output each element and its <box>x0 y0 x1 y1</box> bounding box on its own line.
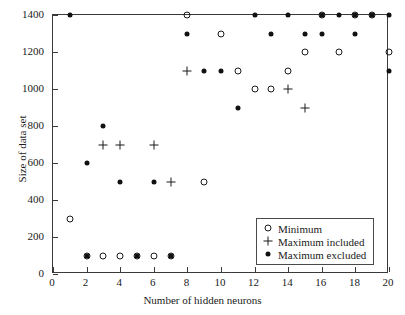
data-point-plus <box>183 66 192 75</box>
legend-label: Minimum <box>275 223 322 235</box>
data-point-open-circle <box>268 86 275 93</box>
data-point-filled-dot <box>286 13 291 18</box>
x-tick <box>355 267 356 272</box>
data-point-plus <box>99 140 108 149</box>
data-point-filled-dot <box>118 179 123 184</box>
data-point-open-circle <box>335 49 342 56</box>
x-tick-label: 6 <box>150 276 156 288</box>
y-tick <box>53 163 58 164</box>
data-point-filled-dot <box>202 68 207 73</box>
data-point-filled-dot <box>353 31 358 36</box>
y-axis-label: Size of data set <box>16 79 28 219</box>
x-tick-label: 4 <box>116 276 122 288</box>
data-point-filled-dot <box>370 13 375 18</box>
x-tick <box>221 267 222 272</box>
y-tick-label: 1400 <box>0 8 44 20</box>
data-point-plus <box>116 140 125 149</box>
x-tick-label: 0 <box>49 276 55 288</box>
data-point-filled-dot <box>387 68 392 73</box>
y-tick <box>53 200 58 201</box>
data-point-open-circle <box>150 252 157 259</box>
chart-legend: MinimumMaximum includedMaximum excluded <box>256 218 374 265</box>
data-point-filled-dot <box>168 253 173 258</box>
y-tick-label: 1200 <box>0 45 44 57</box>
data-point-filled-dot <box>135 253 140 258</box>
scatter-plot-figure: 02468101214161820 0200400600800100012001… <box>0 0 405 315</box>
y-tick <box>53 89 58 90</box>
x-tick <box>322 267 323 272</box>
data-point-open-circle <box>386 49 393 56</box>
x-tick <box>87 267 88 272</box>
y-tick <box>53 274 58 275</box>
data-point-filled-dot <box>336 13 341 18</box>
data-point-open-circle <box>117 252 124 259</box>
data-point-filled-dot <box>303 31 308 36</box>
data-point-filled-dot <box>235 105 240 110</box>
legend-item: Maximum included <box>261 235 366 248</box>
data-point-plus <box>149 140 158 149</box>
data-point-filled-dot <box>67 13 72 18</box>
data-point-filled-dot <box>353 13 358 18</box>
legend-marker-filled-dot-icon <box>261 248 275 261</box>
legend-item: Maximum excluded <box>261 248 366 261</box>
data-point-open-circle <box>201 178 208 185</box>
legend-marker-plus-icon <box>261 235 275 248</box>
data-point-filled-dot <box>219 68 224 73</box>
data-point-plus <box>166 177 175 186</box>
data-point-filled-dot <box>387 13 392 18</box>
data-point-filled-dot <box>269 31 274 36</box>
legend-label: Maximum included <box>275 236 364 248</box>
x-tick-label: 16 <box>315 276 326 288</box>
data-point-filled-dot <box>185 31 190 36</box>
y-tick <box>53 237 58 238</box>
data-point-open-circle <box>218 30 225 37</box>
data-point-open-circle <box>251 86 258 93</box>
x-tick <box>187 267 188 272</box>
data-point-open-circle <box>100 252 107 259</box>
x-tick <box>53 267 54 272</box>
data-point-filled-dot <box>84 253 89 258</box>
data-point-open-circle <box>234 67 241 74</box>
data-point-plus <box>301 103 310 112</box>
data-point-open-circle <box>285 67 292 74</box>
y-tick <box>53 15 58 16</box>
legend-marker-open-circle-icon <box>261 222 275 235</box>
data-point-filled-dot <box>84 161 89 166</box>
data-point-plus <box>284 85 293 94</box>
x-tick-label: 14 <box>282 276 293 288</box>
data-point-filled-dot <box>101 124 106 129</box>
x-tick-label: 12 <box>248 276 259 288</box>
data-point-open-circle <box>66 215 73 222</box>
x-tick-label: 10 <box>215 276 226 288</box>
legend-item: Minimum <box>261 222 366 235</box>
x-tick-label: 8 <box>184 276 190 288</box>
x-axis-label: Number of hidden neurons <box>0 294 405 306</box>
data-point-open-circle <box>302 49 309 56</box>
x-tick <box>389 267 390 272</box>
y-tick <box>53 52 58 53</box>
x-tick-label: 20 <box>383 276 394 288</box>
data-point-filled-dot <box>151 179 156 184</box>
x-tick <box>255 267 256 272</box>
data-point-open-circle <box>184 12 191 19</box>
y-tick <box>53 126 58 127</box>
legend-label: Maximum excluded <box>275 249 366 261</box>
data-point-filled-dot <box>319 13 324 18</box>
x-tick <box>154 267 155 272</box>
x-tick <box>288 267 289 272</box>
data-point-filled-dot <box>319 31 324 36</box>
x-tick-label: 18 <box>349 276 360 288</box>
x-tick <box>120 267 121 272</box>
x-tick-label: 2 <box>83 276 89 288</box>
data-point-filled-dot <box>252 13 257 18</box>
y-tick-label: 0 <box>0 267 44 279</box>
y-tick-label: 200 <box>0 230 44 242</box>
